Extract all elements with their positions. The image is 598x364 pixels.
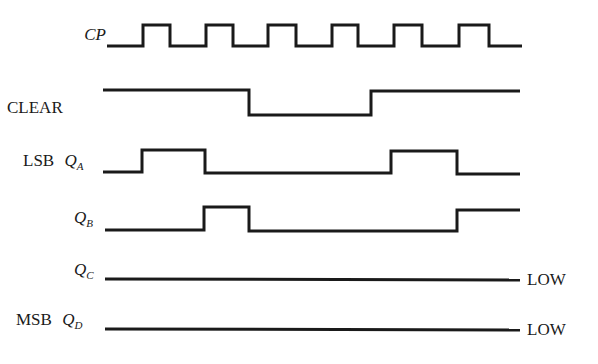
qc-q-text: Q [74, 260, 86, 279]
cp-label-text: CP [84, 25, 106, 44]
qd-subscript: D [74, 319, 82, 331]
qa-waveform [103, 150, 520, 174]
qb-waveform [105, 207, 520, 231]
msb-text: MSB [16, 310, 52, 329]
qa-q-text: Q [64, 151, 76, 170]
lsb-text: LSB [23, 151, 54, 170]
cp-label: CP [84, 26, 106, 43]
qa-subscript: A [77, 160, 84, 172]
clear-label: CLEAR [7, 99, 63, 116]
qb-label: QB [74, 209, 93, 228]
qd-waveform [105, 329, 520, 330]
qd-label: MSB QD [16, 311, 82, 330]
timing-diagram: CP CLEAR LSB QA QB QC MSB QD LOW LOW [0, 0, 598, 364]
qd-low-label: LOW [527, 321, 566, 338]
clear-label-text: CLEAR [7, 98, 63, 117]
waveforms [0, 0, 598, 364]
qd-q-text: Q [62, 310, 74, 329]
qc-waveform [105, 279, 520, 280]
qb-q-text: Q [74, 208, 86, 227]
qb-subscript: B [86, 217, 93, 229]
cp-waveform [107, 25, 522, 46]
qa-label: LSB QA [23, 152, 83, 171]
qc-low-label: LOW [527, 271, 566, 288]
clear-waveform [103, 90, 520, 115]
qc-label: QC [74, 261, 94, 280]
qc-subscript: C [86, 269, 93, 281]
